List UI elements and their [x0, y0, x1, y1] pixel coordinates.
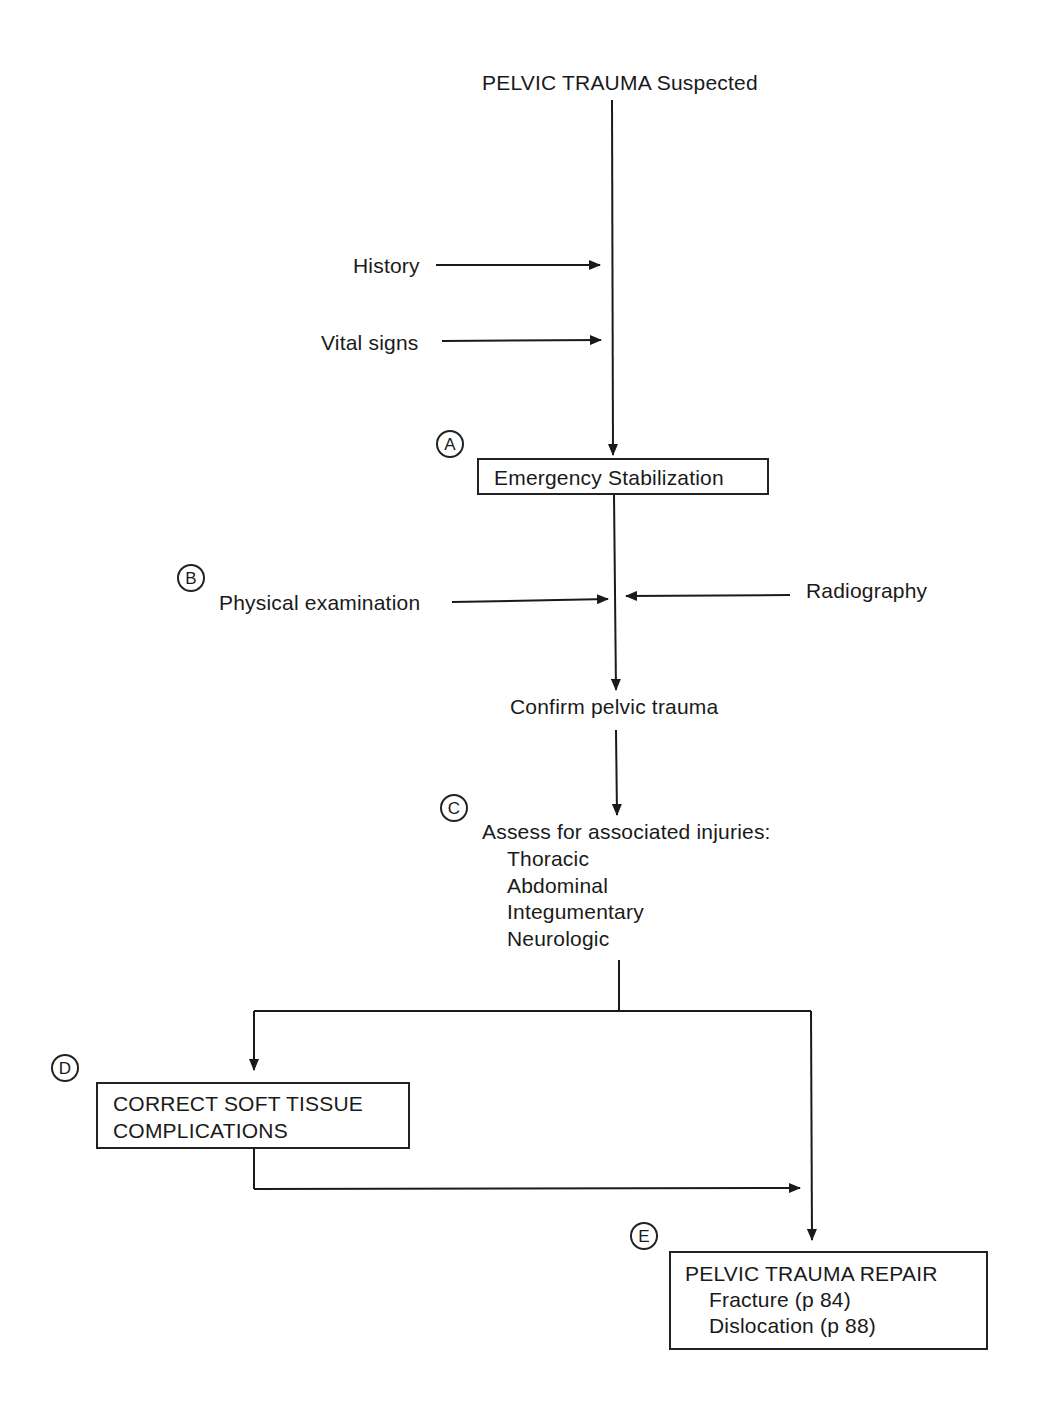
repair-item-fracture: Fracture (p 84) — [709, 1289, 986, 1310]
repair-heading: PELVIC TRAUMA REPAIR — [685, 1263, 986, 1284]
confirm-pelvic-trauma: Confirm pelvic trauma — [510, 696, 718, 717]
step-marker-c: C — [440, 794, 468, 822]
input-vital-signs: Vital signs — [321, 332, 419, 353]
soft-tissue-line2: COMPLICATIONS — [113, 1120, 408, 1141]
emergency-stabilization-label: Emergency Stabilization — [494, 467, 767, 488]
step-marker-e: E — [630, 1222, 658, 1250]
injury-item: Integumentary — [507, 901, 644, 922]
soft-tissue-line1: CORRECT SOFT TISSUE — [113, 1093, 408, 1114]
step-marker-a: A — [436, 430, 464, 458]
input-history: History — [353, 255, 420, 276]
injury-item: Thoracic — [507, 848, 589, 869]
input-radiography: Radiography — [806, 580, 927, 601]
injury-item: Abdominal — [507, 875, 608, 896]
start-node-title: PELVIC TRAUMA Suspected — [482, 72, 758, 93]
step-marker-d: D — [51, 1054, 79, 1082]
soft-tissue-box: CORRECT SOFT TISSUE COMPLICATIONS — [96, 1082, 410, 1149]
input-physical-examination: Physical examination — [219, 592, 420, 613]
pelvic-trauma-repair-box: PELVIC TRAUMA REPAIR Fracture (p 84) Dis… — [669, 1251, 988, 1350]
injury-item: Neurologic — [507, 928, 609, 949]
repair-item-dislocation: Dislocation (p 88) — [709, 1315, 986, 1336]
step-marker-b: B — [177, 564, 205, 592]
emergency-stabilization-box: Emergency Stabilization — [477, 458, 769, 495]
assess-heading: Assess for associated injuries: — [482, 821, 771, 842]
